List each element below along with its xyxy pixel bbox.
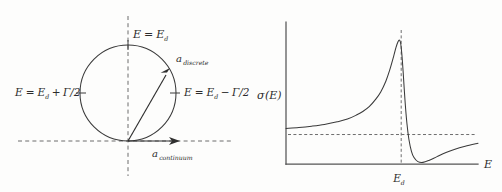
label-right-sub: d <box>214 93 218 100</box>
label-top-rhs-sub: d <box>164 35 168 42</box>
right-panel-group: σ(E) E Ed <box>257 22 492 186</box>
label-a-discrete-sub: discrete <box>183 59 209 66</box>
label-top-rhs-base: E <box>155 28 164 41</box>
label-left-upper-halfwidth: E=Ed+Γ/2 <box>14 86 81 100</box>
label-right-equals: = <box>195 86 204 98</box>
left-panel-group: E=Ed E=Ed+Γ/2 E=Ed−Γ/2 adiscrete acontin… <box>14 16 250 176</box>
label-right-lower-halfwidth: E=Ed−Γ/2 <box>183 86 250 100</box>
label-right-base: E <box>205 86 214 98</box>
x-tick-label-sub: d <box>401 179 405 186</box>
x-tick-label-resonance-energy: Ed <box>392 172 405 186</box>
label-left-sub: d <box>45 93 49 100</box>
label-left-lhs: E <box>14 86 23 98</box>
label-top-equals: = <box>144 28 153 41</box>
figure-container: E=Ed E=Ed+Γ/2 E=Ed−Γ/2 adiscrete acontin… <box>0 0 502 192</box>
a-discrete-arrow-shaft <box>128 75 166 141</box>
label-a-continuum-base: a <box>152 148 158 159</box>
label-right-operator: − <box>221 86 230 98</box>
label-a-continuum-sub: continuum <box>159 154 193 161</box>
y-axis-label-base: σ <box>257 89 265 102</box>
label-right-lhs: E <box>183 86 192 98</box>
x-tick-label-base: E <box>392 172 401 184</box>
label-a-discrete-base: a <box>176 53 182 64</box>
y-axis-label-arg: (E) <box>265 89 282 102</box>
label-left-term: Γ/2 <box>62 86 81 98</box>
label-top-resonance: E=Ed <box>132 28 168 42</box>
label-left-base: E <box>36 86 45 98</box>
label-top-lhs: E <box>132 28 141 41</box>
label-a-continuum: acontinuum <box>152 148 193 161</box>
label-a-discrete: adiscrete <box>176 53 209 66</box>
label-right-term: Γ/2 <box>231 86 250 98</box>
figure-canvas: E=Ed E=Ed+Γ/2 E=Ed−Γ/2 adiscrete acontin… <box>0 0 502 192</box>
y-axis-label: σ(E) <box>257 89 282 102</box>
label-left-operator: + <box>52 86 61 98</box>
x-axis-label: E <box>483 158 492 171</box>
label-left-equals: = <box>26 86 35 98</box>
fano-profile-curve <box>286 40 478 162</box>
